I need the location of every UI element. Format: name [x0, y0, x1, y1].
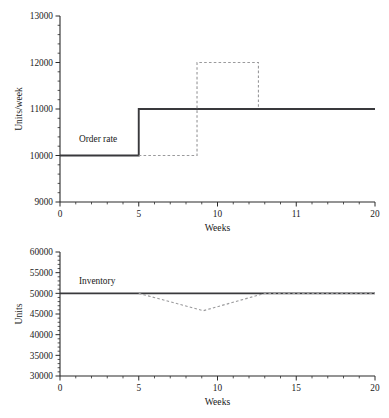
y-tick-label: 55000 [30, 268, 54, 278]
x-tick-label: 5 [136, 209, 141, 219]
inventory-chart: 3000035000400004500050000550006000005101… [0, 232, 389, 418]
y-tick-label: 11000 [30, 104, 53, 114]
x-tick-label: 20 [370, 383, 380, 393]
series-annotation-label: Order rate [79, 134, 117, 144]
y-tick-label: 9000 [34, 197, 53, 207]
series-annotation-label: Inventory [79, 276, 116, 286]
x-tick-label: 5 [136, 383, 141, 393]
x-tick-label: 0 [58, 209, 63, 219]
series-line-solid [60, 109, 375, 156]
y-tick-label: 60000 [30, 247, 54, 257]
x-tick-label: 0 [58, 383, 63, 393]
y-tick-label: 50000 [30, 289, 54, 299]
x-tick-label: 11 [292, 209, 301, 219]
x-tick-label: 10 [213, 209, 223, 219]
y-tick-label: 35000 [30, 351, 54, 361]
order-rate-chart: 90001000011000120001300005101120Order ra… [0, 0, 389, 232]
x-tick-label: 20 [370, 209, 380, 219]
y-tick-label: 13000 [30, 11, 54, 21]
y-tick-label: 30000 [30, 371, 54, 381]
x-tick-label: 10 [213, 383, 223, 393]
y-tick-label: 12000 [30, 58, 54, 68]
y-axis-title: Units [13, 303, 24, 324]
y-tick-label: 45000 [30, 309, 54, 319]
series-line-dashed [139, 293, 375, 310]
x-tick-label: 15 [292, 383, 302, 393]
x-axis-title: Weeks [205, 396, 231, 407]
y-axis-title: Units/week [13, 87, 24, 131]
y-tick-label: 40000 [30, 330, 54, 340]
figure: 90001000011000120001300005101120Order ra… [0, 0, 389, 418]
chart-panel-inventory: 3000035000400004500050000550006000005101… [0, 232, 389, 418]
y-tick-label: 10000 [30, 151, 54, 161]
chart-panel-order-rate: 90001000011000120001300005101120Order ra… [0, 0, 389, 232]
